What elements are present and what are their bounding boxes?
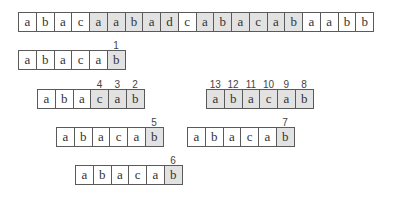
char-label: b [361,14,368,30]
char-cell: a [73,89,92,109]
char-label: a [149,14,155,30]
comparison-step-number: 12 [224,79,243,90]
char-cell: c [128,165,147,185]
char-label: a [113,14,119,30]
pattern-row-1: abacab1 [18,50,126,70]
char-label: a [60,52,66,68]
char-cell: b [93,165,112,185]
char-cell: a [92,127,111,147]
char-cell: a [56,127,75,147]
char-label: c [255,14,261,30]
char-label: a [95,52,101,68]
char-label: c [78,14,84,30]
char-cell: b2 [126,89,145,109]
char-label: a [229,129,235,145]
char-label: c [78,52,84,68]
char-label: d [166,14,173,30]
char-label: b [80,129,87,145]
comparison-step-number: 7 [276,117,295,128]
char-cell: a [302,12,321,32]
char-cell: a [187,127,206,147]
char-cell: c [240,127,259,147]
char-label: a [114,91,120,107]
char-cell: a [223,127,242,147]
char-cell: a [267,12,286,32]
char-label: b [230,91,237,107]
char-cell: a13 [206,89,225,109]
char-label: a [308,14,314,30]
char-cell: c [71,50,90,70]
char-cell: a [89,50,108,70]
char-cell: a [111,165,130,185]
char-cell: c [71,12,90,32]
char-cell: a [18,50,37,70]
char-cell: c10 [259,89,278,109]
comparison-step-number: 2 [126,79,145,90]
char-cell: a [142,12,161,32]
char-cell: a [258,127,277,147]
char-cell: b8 [295,89,314,109]
char-cell: c [109,127,128,147]
pattern-row-3-right: abacab7 [187,127,295,147]
comparison-step-number: 11 [242,79,261,90]
char-label: a [273,14,279,30]
char-cell: a11 [242,89,261,109]
char-label: a [62,129,68,145]
char-cell: b [36,12,55,32]
char-label: a [95,14,101,30]
comparison-step-number: 5 [145,117,164,128]
char-label: b [113,52,120,68]
comparison-step-number: 4 [90,79,109,90]
char-label: a [60,14,66,30]
comparison-step-number: 10 [259,79,278,90]
pattern-row-3-left: abacab5 [56,127,164,147]
char-cell: a [89,12,108,32]
char-label: a [24,14,30,30]
char-cell: a [54,12,73,32]
char-cell: a [37,89,56,109]
pattern-row-2-right: a13b12a11c10a9b8 [206,89,314,109]
char-label: a [152,167,158,183]
char-cell: a [107,12,126,32]
char-label: b [219,14,226,30]
char-label: c [184,14,190,30]
char-cell: b [55,89,74,109]
char-label: b [132,91,139,107]
char-cell: d [160,12,179,32]
char-cell: b [36,50,55,70]
char-label: a [326,14,332,30]
char-cell: a [75,165,94,185]
char-cell: b12 [224,89,243,109]
char-label: a [81,167,87,183]
char-cell: c [249,12,268,32]
comparison-step-number: 6 [164,155,183,166]
char-cell: b5 [145,127,164,147]
char-cell: b [74,127,93,147]
pattern-row-4: abacab6 [75,165,183,185]
char-cell: b [338,12,357,32]
char-cell: b6 [164,165,183,185]
char-cell: a [18,12,37,32]
char-label: a [237,14,243,30]
comparison-step-number: 3 [108,79,127,90]
comparison-step-number: 13 [206,79,225,90]
comparison-step-number: 1 [107,40,126,51]
char-label: b [151,129,158,145]
char-label: b [42,14,49,30]
char-cell: b [284,12,303,32]
char-label: a [79,91,85,107]
char-cell: a [54,50,73,70]
char-label: c [266,91,272,107]
char-cell: b [205,127,224,147]
char-cell: a [320,12,339,32]
char-label: a [264,129,270,145]
char-cell: c [178,12,197,32]
char-cell: b [213,12,232,32]
char-cell: a [127,127,146,147]
char-cell: b [125,12,144,32]
char-label: c [247,129,253,145]
char-cell: b1 [107,50,126,70]
char-label: b [344,14,351,30]
char-label: a [283,91,289,107]
char-label: a [24,52,30,68]
